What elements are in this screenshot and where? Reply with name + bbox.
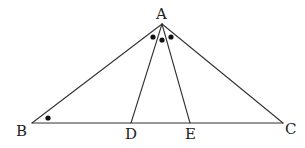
- point-label-e: E: [185, 125, 196, 143]
- angle-mark-a-middle: [159, 37, 164, 42]
- segment-ae: [162, 24, 190, 123]
- segment-ad: [131, 24, 162, 123]
- angle-mark-a-right: [168, 34, 173, 39]
- triangle-diagram: A B C D E: [0, 0, 305, 148]
- point-label-d: D: [125, 125, 137, 143]
- point-label-a: A: [155, 5, 167, 23]
- angle-mark-b: [45, 115, 50, 120]
- segment-ab: [32, 24, 162, 123]
- angle-mark-a-left: [150, 34, 155, 39]
- segment-ac: [162, 24, 283, 123]
- point-label-b: B: [16, 122, 27, 140]
- point-label-c: C: [285, 120, 296, 138]
